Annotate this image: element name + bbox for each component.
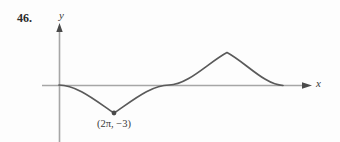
minimum-point-marker [112,111,117,116]
x-axis-label: x [316,77,321,89]
minimum-point-label: (2π, −3) [97,118,131,129]
plot-svg [0,0,340,142]
y-axis-label: y [59,9,64,21]
figure-container: 46. y x (2π, −3) [0,0,340,142]
y-axis-arrowhead [56,23,62,32]
sine-curve [59,53,283,114]
x-axis-arrowhead [302,82,312,89]
